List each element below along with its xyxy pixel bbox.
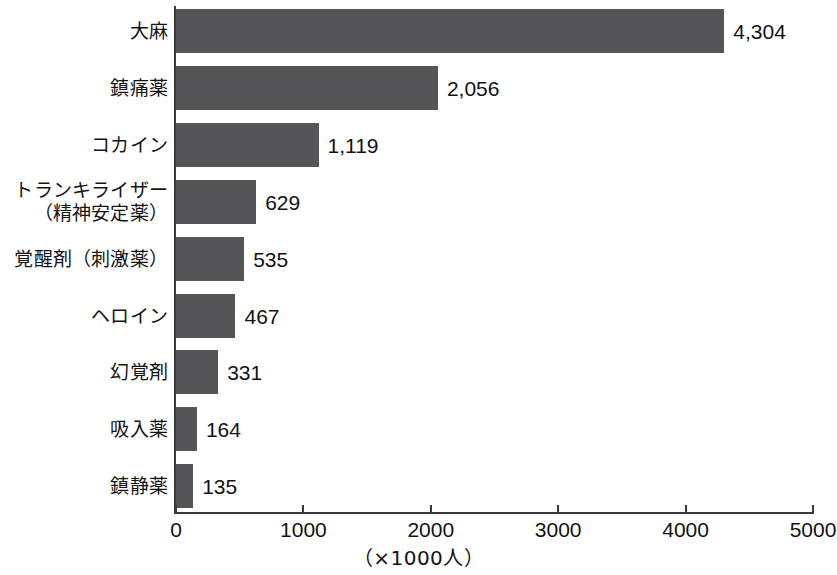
bar-row: 吸入薬164 bbox=[0, 407, 837, 451]
bar bbox=[176, 464, 193, 508]
category-label-line: 大麻 bbox=[130, 20, 168, 42]
bar-row: コカイン1,119 bbox=[0, 123, 837, 167]
bar-row: ヘロイン467 bbox=[0, 294, 837, 338]
x-axis-tick bbox=[302, 505, 304, 513]
category-label: 鎮静薬 bbox=[110, 475, 168, 498]
category-label-line: コカイン bbox=[91, 133, 168, 155]
category-label: 覚醒剤（刺激薬） bbox=[14, 247, 168, 270]
bar-row: 鎮静薬135 bbox=[0, 464, 837, 508]
category-label-line: （精神安定薬） bbox=[14, 202, 168, 225]
category-label: コカイン bbox=[91, 133, 168, 156]
bar bbox=[176, 66, 438, 110]
x-axis-tick-label: 3000 bbox=[535, 518, 582, 542]
x-axis-tick-label: 0 bbox=[170, 518, 182, 542]
bar-value-label: 135 bbox=[202, 476, 237, 497]
x-axis-tick bbox=[175, 505, 177, 513]
bar-row: 幻覚剤331 bbox=[0, 350, 837, 394]
x-axis-tick-label: 1000 bbox=[280, 518, 327, 542]
bar-value-label: 4,304 bbox=[733, 21, 786, 42]
bar bbox=[176, 237, 244, 281]
bar-value-label: 1,119 bbox=[328, 134, 379, 155]
category-label-line: 鎮静薬 bbox=[110, 475, 168, 497]
bar-value-label: 467 bbox=[244, 305, 279, 326]
bar-value-label: 629 bbox=[265, 191, 300, 212]
bar bbox=[176, 407, 197, 451]
x-axis-tick bbox=[685, 505, 687, 513]
x-axis-tick-label: 2000 bbox=[407, 518, 454, 542]
plot-area: 大麻4,304鎮痛薬2,056コカイン1,119トランキライザー（精神安定薬）6… bbox=[0, 0, 837, 575]
category-label-line: トランキライザー bbox=[14, 179, 168, 201]
bar-value-label: 2,056 bbox=[447, 77, 500, 98]
category-label: ヘロイン bbox=[91, 304, 168, 327]
x-axis-line bbox=[175, 512, 814, 514]
x-axis-tick bbox=[557, 505, 559, 513]
category-label: 幻覚剤 bbox=[110, 361, 168, 384]
bar bbox=[176, 180, 256, 224]
bar bbox=[176, 350, 218, 394]
bar bbox=[176, 123, 319, 167]
category-label-line: 覚醒剤（刺激薬） bbox=[14, 247, 168, 269]
category-label-line: 吸入薬 bbox=[110, 418, 168, 440]
category-label-line: ヘロイン bbox=[91, 304, 168, 326]
bar-row: トランキライザー（精神安定薬）629 bbox=[0, 180, 837, 224]
bar-row: 覚醒剤（刺激薬）535 bbox=[0, 237, 837, 281]
category-label-line: 鎮痛薬 bbox=[110, 76, 168, 98]
x-axis-tick bbox=[812, 505, 814, 513]
category-label: 吸入薬 bbox=[110, 418, 168, 441]
category-label-line: 幻覚剤 bbox=[110, 361, 168, 383]
category-label: トランキライザー（精神安定薬） bbox=[14, 179, 168, 225]
bar-row: 大麻4,304 bbox=[0, 9, 837, 53]
x-axis-tick-label: 4000 bbox=[662, 518, 709, 542]
bar-value-label: 331 bbox=[227, 362, 262, 383]
x-axis-tick-label: 5000 bbox=[790, 518, 837, 542]
category-label: 大麻 bbox=[130, 20, 168, 43]
bar-row: 鎮痛薬2,056 bbox=[0, 66, 837, 110]
bar bbox=[176, 294, 235, 338]
category-label: 鎮痛薬 bbox=[110, 76, 168, 99]
bar-chart: 大麻4,304鎮痛薬2,056コカイン1,119トランキライザー（精神安定薬）6… bbox=[0, 0, 837, 575]
bar bbox=[176, 9, 724, 53]
bar-value-label: 535 bbox=[253, 248, 288, 269]
x-axis-tick bbox=[430, 505, 432, 513]
x-axis-title: （×1000人） bbox=[0, 546, 837, 570]
bar-value-label: 164 bbox=[206, 419, 241, 440]
